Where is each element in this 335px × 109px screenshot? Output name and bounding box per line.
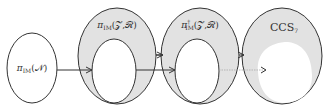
label-pi-im-dagger-zr: π†IM(𝒵,ℛ) bbox=[181, 18, 218, 31]
label-ccs7: CCS7 bbox=[270, 21, 298, 34]
node-pi-im-dagger-zr-inner bbox=[175, 39, 219, 103]
label-args: (𝒵,ℛ) bbox=[112, 20, 137, 30]
node-ccs7-inner-region bbox=[258, 42, 312, 103]
label-args: (𝒵,ℛ) bbox=[194, 20, 219, 30]
label-pi-im-n: πIM(𝒩) bbox=[17, 63, 47, 74]
label-symbol: CCS bbox=[270, 21, 294, 34]
node-pi-im-zr-inner bbox=[92, 39, 136, 103]
label-args: (𝒩) bbox=[31, 63, 47, 73]
label-subscript: 7 bbox=[294, 27, 298, 34]
diagram-canvas bbox=[0, 0, 335, 109]
label-pi-im-zr: πIM(𝒵,ℛ) bbox=[97, 20, 136, 31]
